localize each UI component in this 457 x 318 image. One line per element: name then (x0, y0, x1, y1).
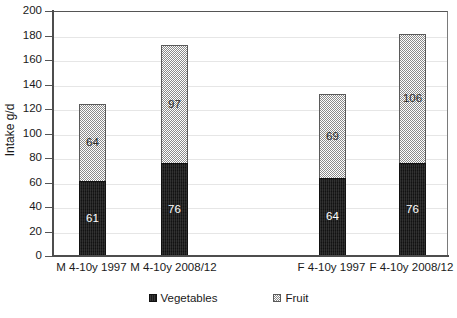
legend-item-vegetables[interactable]: Vegetables (149, 292, 218, 304)
bar-value-label: 64 (86, 137, 99, 149)
x-axis-category-label: M 4-10y 2008/12 (129, 261, 219, 273)
gridline (54, 184, 447, 185)
bar-segment-fruit[interactable]: 69 (319, 94, 346, 179)
gridline (54, 37, 447, 38)
y-axis-tick (45, 158, 52, 159)
bar-value-label: 76 (406, 204, 419, 216)
gridline (54, 135, 447, 136)
bar-value-label: 97 (168, 99, 181, 111)
y-axis-tick-label: 120 (14, 102, 42, 114)
y-axis-tick-label: 60 (14, 176, 42, 188)
bar-value-label: 76 (168, 204, 181, 216)
veg-swatch-icon (149, 294, 157, 302)
bar-segment-fruit[interactable]: 106 (399, 34, 426, 164)
legend-label-fruit: Fruit (285, 292, 308, 304)
bar-segment-vegetables[interactable]: 61 (79, 181, 106, 256)
bar-value-label: 69 (326, 131, 339, 143)
bar-value-label: 64 (326, 211, 339, 223)
bar-segment-vegetables[interactable]: 76 (399, 163, 426, 256)
gridline (54, 159, 447, 160)
y-axis-tick-label: 20 (14, 225, 42, 237)
gridline (54, 208, 447, 209)
bar-segment-vegetables[interactable]: 64 (319, 178, 346, 256)
y-axis-tick (45, 183, 52, 184)
x-axis-category-label: M 4-10y 1997 (47, 261, 137, 273)
bar-segment-fruit[interactable]: 97 (161, 45, 188, 164)
gridline (54, 61, 447, 62)
x-axis-category-label: F 4-10y 2008/12 (367, 261, 457, 273)
y-axis-tick (45, 232, 52, 233)
y-axis-tick-label: 0 (14, 249, 42, 261)
y-axis-tick-label: 140 (14, 78, 42, 90)
y-axis-tick-label: 100 (14, 127, 42, 139)
stacked-bar[interactable]: 9776 (161, 45, 188, 257)
fruit-swatch-icon (273, 294, 281, 302)
y-axis-tick-label: 200 (14, 4, 42, 16)
y-axis-tick-label: 180 (14, 29, 42, 41)
stacked-bar-chart: Intake g/d 64619776696410676 20018016014… (0, 0, 457, 318)
y-axis-tick (45, 36, 52, 37)
y-axis-tick (45, 134, 52, 135)
legend-item-fruit[interactable]: Fruit (273, 292, 308, 304)
stacked-bar[interactable]: 10676 (399, 34, 426, 257)
x-axis-line (52, 255, 449, 257)
y-axis-tick-label: 160 (14, 53, 42, 65)
stacked-bar[interactable]: 6461 (79, 104, 106, 257)
gridline (54, 233, 447, 234)
chart-legend: Vegetables Fruit (0, 292, 457, 304)
bar-segment-vegetables[interactable]: 76 (161, 163, 188, 256)
y-axis-tick (45, 11, 52, 12)
y-axis-tick-label: 40 (14, 200, 42, 212)
bar-value-label: 106 (403, 93, 422, 105)
y-axis-tick (45, 256, 52, 257)
gridline (54, 86, 447, 87)
y-axis-tick-label: 80 (14, 151, 42, 163)
y-axis-tick (45, 60, 52, 61)
plot-area: 64619776696410676 (53, 11, 448, 256)
stacked-bar[interactable]: 6964 (319, 94, 346, 257)
bar-segment-fruit[interactable]: 64 (79, 104, 106, 182)
gridline (54, 110, 447, 111)
legend-label-vegetables: Vegetables (161, 292, 218, 304)
y-axis-tick (45, 109, 52, 110)
y-axis-line (52, 10, 54, 257)
bar-value-label: 61 (86, 213, 99, 225)
x-axis-category-label: F 4-10y 1997 (287, 261, 377, 273)
y-axis-tick (45, 207, 52, 208)
y-axis-tick (45, 85, 52, 86)
